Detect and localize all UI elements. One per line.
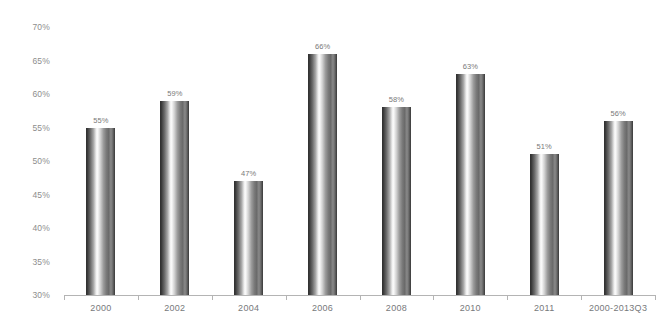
x-axis-tick [212,295,213,300]
y-axis-tick-label: 35% [32,257,50,267]
bar-value-label: 63% [463,62,478,71]
y-axis-tick-label: 65% [32,56,50,66]
bar-group[interactable]: 55% [86,128,115,296]
bar[interactable] [160,101,189,295]
x-axis-tick [655,295,656,300]
x-axis-tick [581,295,582,300]
bar[interactable] [604,121,633,295]
y-axis-tick-label: 50% [32,156,50,166]
x-axis-tick [360,295,361,300]
bar-group[interactable]: 56% [604,121,633,295]
bar[interactable] [308,54,337,295]
y-axis-tick-label: 60% [32,89,50,99]
x-axis-category-label: 2002 [164,303,185,313]
bar[interactable] [86,128,115,296]
bar-value-label: 55% [93,116,108,125]
y-axis-tick-label: 30% [32,290,50,300]
bar[interactable] [234,181,263,295]
bar-value-label: 47% [241,169,256,178]
bar-value-label: 59% [167,89,182,98]
x-axis-category-label: 2010 [460,303,481,313]
x-axis-category-label: 2008 [386,303,407,313]
y-axis-tick-label: 70% [32,22,50,32]
y-axis-tick-label: 55% [32,123,50,133]
y-axis: 70%65%60%55%50%45%40%35%30% [0,0,64,333]
bar-group[interactable]: 51% [530,154,559,295]
bar-value-label: 58% [389,95,404,104]
bar-group[interactable]: 58% [382,107,411,295]
bar-value-label: 66% [315,42,330,51]
y-axis-tick-label: 40% [32,223,50,233]
x-axis-category-label: 2006 [312,303,333,313]
bar[interactable] [456,74,485,295]
x-axis-tick [433,295,434,300]
x-axis-tick [507,295,508,300]
x-axis-tick [64,295,65,300]
bar-chart: 70%65%60%55%50%45%40%35%30% 55%59%47%66%… [0,0,667,333]
bar[interactable] [382,107,411,295]
bar-group[interactable]: 66% [308,54,337,295]
x-axis-category-label: 2000 [90,303,111,313]
bar-value-label: 51% [537,142,552,151]
bar-group[interactable]: 47% [234,181,263,295]
x-axis-category-label: 2004 [238,303,259,313]
plot-area: 55%59%47%66%58%63%51%56% [64,0,655,333]
x-axis-category-label: 2000-2013Q3 [589,303,647,313]
bar-group[interactable]: 59% [160,101,189,295]
bar-value-label: 56% [610,109,625,118]
bar-group[interactable]: 63% [456,74,485,295]
x-axis-tick [138,295,139,300]
x-axis-category-label: 2011 [534,303,555,313]
x-axis-tick [286,295,287,300]
bar[interactable] [530,154,559,295]
y-axis-tick-label: 45% [32,190,50,200]
